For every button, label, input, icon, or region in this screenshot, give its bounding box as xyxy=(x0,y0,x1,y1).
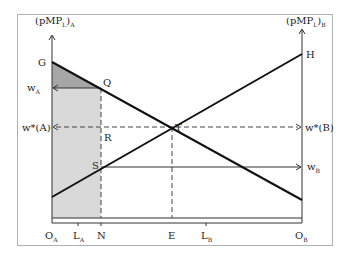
point-S: S xyxy=(92,160,99,171)
point-H: H xyxy=(306,49,315,60)
point-T: T xyxy=(175,122,182,133)
specific-factors-diagram: (pMPL)A (pMPL)B G H Q R S T wA w*(A) w*(… xyxy=(0,0,350,260)
left-axis-title: (pMPL)A xyxy=(35,15,75,28)
label-wstarB: w*(B) xyxy=(305,122,334,133)
point-Q: Q xyxy=(103,77,111,88)
label-wstarA: w*(A) xyxy=(22,122,51,133)
label-E: E xyxy=(168,230,175,241)
label-wB: wB xyxy=(307,161,321,174)
shaded-rent-area xyxy=(52,88,101,218)
label-OB: OB xyxy=(295,230,308,243)
point-R: R xyxy=(104,132,112,143)
label-wA: wA xyxy=(27,82,41,95)
label-OA: OA xyxy=(45,230,58,243)
point-G: G xyxy=(38,57,46,68)
label-LA: LA xyxy=(73,230,85,243)
right-axis-title: (pMPL)B xyxy=(286,15,326,28)
label-N: N xyxy=(97,230,106,241)
label-LB: LB xyxy=(201,230,213,243)
